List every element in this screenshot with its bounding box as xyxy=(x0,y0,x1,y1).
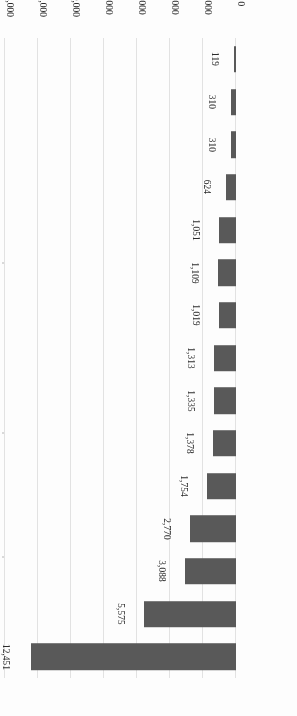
x-tick-label: 6,000 xyxy=(137,0,147,34)
rotated-figure: 02,0004,0006,0008,00010,00012,00014,000 … xyxy=(0,0,297,716)
bar-value-label: 12,451 xyxy=(1,644,11,670)
x-tick-label: 2,000 xyxy=(203,0,213,34)
x-tick-label: 12,000 xyxy=(38,0,48,34)
x-tick-label: 8,000 xyxy=(104,0,114,34)
bar-chart-plot: 02,0004,0006,0008,00010,00012,00014,000 … xyxy=(0,0,297,716)
bar xyxy=(231,89,236,115)
bar-value-label: 5,575 xyxy=(116,603,126,624)
category-label-slot: Russia xyxy=(239,166,297,209)
bar-value-label: 2,770 xyxy=(163,518,173,539)
x-tick-label: 0 xyxy=(236,0,246,34)
bar xyxy=(213,430,236,456)
x-tick-label: 4,000 xyxy=(170,0,180,34)
bar-row: 310Israel xyxy=(0,123,297,166)
bar-value-label: 1,335 xyxy=(186,390,196,411)
category-label-slot: U.S.A xyxy=(239,422,297,465)
category-label-slot: Singapore xyxy=(239,294,297,337)
category-label-slot: France xyxy=(239,81,297,124)
bar-value-label: 1,754 xyxy=(179,475,189,496)
bar-row: 1,109Thailand xyxy=(0,251,297,294)
category-label-slot: Thailand xyxy=(239,251,297,294)
bar-value-label: 1,313 xyxy=(187,347,197,368)
bar-value-label: 1,378 xyxy=(186,433,196,454)
x-tick-label: 10,000 xyxy=(71,0,81,34)
bar-value-label: 310 xyxy=(207,138,217,152)
bar-value-label: 3,088 xyxy=(157,561,167,582)
bar xyxy=(31,643,236,669)
bar xyxy=(190,515,236,541)
bar-row: 1,754Vietnam xyxy=(0,465,297,508)
bar-value-label: 310 xyxy=(207,95,217,109)
bar-value-label: 624 xyxy=(202,180,212,194)
category-label-slot: Canada xyxy=(239,38,297,81)
bar-row: 12,451China xyxy=(0,635,297,678)
bar xyxy=(219,217,236,243)
category-label-slot: Vietnam xyxy=(239,465,297,508)
bar-row: 1,019Singapore xyxy=(0,294,297,337)
bar-row: 624Russia xyxy=(0,166,297,209)
category-label-slot: Hong Kong xyxy=(239,337,297,380)
bar xyxy=(226,174,236,200)
bar-row: 1,378U.S.A xyxy=(0,422,297,465)
bar-row: 1,335Taiwan xyxy=(0,379,297,422)
x-tick-label: 14,000 xyxy=(5,0,15,34)
category-label-slot: Japan xyxy=(239,209,297,252)
bar-row: 119Canada xyxy=(0,38,297,81)
category-label-slot: Malaysia xyxy=(239,550,297,593)
bar xyxy=(214,387,236,413)
bar-value-label: 1,051 xyxy=(191,219,201,240)
bar-value-label: 1,109 xyxy=(190,262,200,283)
bar xyxy=(234,46,236,72)
bar-row: 310France xyxy=(0,81,297,124)
bar xyxy=(144,601,236,627)
bar-row: 2,770UK xyxy=(0,507,297,550)
category-label-slot: Korea xyxy=(239,593,297,636)
bar-row: 3,088Malaysia xyxy=(0,550,297,593)
bar-row: 1,313Hong Kong xyxy=(0,337,297,380)
bar-row: 1,051Japan xyxy=(0,209,297,252)
chart-page: 02,0004,0006,0008,00010,00012,00014,000 … xyxy=(0,0,297,716)
bar xyxy=(207,473,236,499)
bar xyxy=(218,259,236,285)
bar-row: 5,575Korea xyxy=(0,593,297,636)
bar xyxy=(214,345,236,371)
bar xyxy=(231,131,236,157)
category-label-slot: China xyxy=(239,635,297,678)
category-label-slot: Israel xyxy=(239,123,297,166)
category-label-slot: UK xyxy=(239,507,297,550)
bar-value-label: 1,019 xyxy=(192,305,202,326)
category-label-slot: Taiwan xyxy=(239,379,297,422)
bar xyxy=(185,558,236,584)
bar-value-label: 119 xyxy=(210,52,220,66)
bar xyxy=(219,302,236,328)
